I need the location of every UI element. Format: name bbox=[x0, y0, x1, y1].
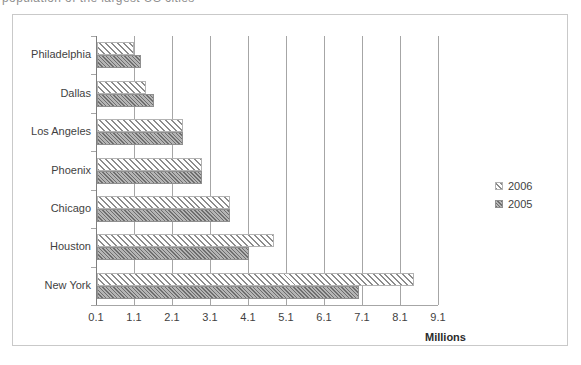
bar-2006[interactable] bbox=[97, 158, 202, 171]
bar-2006[interactable] bbox=[97, 119, 183, 132]
bar-group bbox=[97, 119, 439, 145]
category-label: Dallas bbox=[15, 87, 91, 99]
value-axis-tick-label: 1.1 bbox=[119, 311, 149, 323]
category-label: Chicago bbox=[15, 202, 91, 214]
value-axis-tick-label: 0.1 bbox=[81, 311, 111, 323]
value-axis-tick-label: 3.1 bbox=[195, 311, 225, 323]
legend-label: 2005 bbox=[508, 198, 532, 210]
category-tick bbox=[91, 190, 96, 191]
legend-item-2005[interactable]: 2005 bbox=[495, 195, 557, 213]
bar-2005[interactable] bbox=[97, 55, 141, 68]
bar-2006[interactable] bbox=[97, 273, 414, 286]
legend-item-2006[interactable]: 2006 bbox=[495, 177, 557, 195]
bar-2005[interactable] bbox=[97, 171, 202, 184]
value-axis-tick-label: 8.1 bbox=[385, 311, 415, 323]
hatched-swatch-icon bbox=[495, 182, 503, 190]
value-axis-tick-label: 5.1 bbox=[271, 311, 301, 323]
value-axis-tick-label: 2.1 bbox=[157, 311, 187, 323]
category-tick bbox=[91, 74, 96, 75]
category-tick bbox=[91, 267, 96, 268]
value-axis-tick-label: 6.1 bbox=[309, 311, 339, 323]
cut-off-caption-sliver: population of the largest US cities bbox=[0, 0, 581, 9]
bar-2005[interactable] bbox=[97, 94, 154, 107]
bar-group bbox=[97, 158, 439, 184]
value-axis-title: Millions bbox=[425, 331, 466, 343]
category-axis-labels: New YorkHoustonChicagoPhoenixLos Angeles… bbox=[13, 36, 91, 305]
bar-2005[interactable] bbox=[97, 286, 359, 299]
bar-2005[interactable] bbox=[97, 247, 249, 260]
value-axis-tick-label: 7.1 bbox=[347, 311, 377, 323]
value-axis-tick-labels: 0.11.12.13.14.15.16.17.18.19.1 bbox=[96, 311, 456, 327]
bar-group bbox=[97, 196, 439, 222]
bar-group bbox=[97, 273, 439, 299]
category-label: New York bbox=[15, 279, 91, 291]
chart-frame: New YorkHoustonChicagoPhoenixLos Angeles… bbox=[12, 14, 568, 346]
chart-legend: 20062005 bbox=[495, 177, 557, 213]
category-label: Phoenix bbox=[15, 164, 91, 176]
bar-group bbox=[97, 234, 439, 260]
legend-label: 2006 bbox=[508, 180, 532, 192]
category-tick bbox=[91, 36, 96, 37]
cut-off-caption-text: population of the largest US cities bbox=[2, 0, 195, 5]
value-axis-tick-label: 4.1 bbox=[233, 311, 263, 323]
bar-2006[interactable] bbox=[97, 196, 230, 209]
category-tick bbox=[91, 305, 96, 306]
bar-group bbox=[97, 42, 439, 68]
bar-2005[interactable] bbox=[97, 209, 230, 222]
bar-2006[interactable] bbox=[97, 81, 146, 94]
plot-area bbox=[96, 36, 438, 305]
bar-2006[interactable] bbox=[97, 42, 134, 55]
category-tick bbox=[91, 151, 96, 152]
bar-2006[interactable] bbox=[97, 234, 274, 247]
category-label: Philadelphia bbox=[15, 48, 91, 60]
category-tick bbox=[91, 113, 96, 114]
category-label: Houston bbox=[15, 240, 91, 252]
category-label: Los Angeles bbox=[15, 125, 91, 137]
value-axis-line bbox=[96, 305, 438, 306]
category-tick bbox=[91, 228, 96, 229]
value-axis-tick-label: 9.1 bbox=[423, 311, 453, 323]
bar-2005[interactable] bbox=[97, 132, 183, 145]
solid-swatch-icon bbox=[495, 200, 503, 208]
bar-group bbox=[97, 81, 439, 107]
